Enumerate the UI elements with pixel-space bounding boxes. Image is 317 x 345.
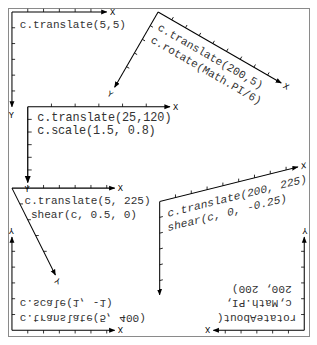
- x-axis-label: X: [204, 324, 210, 334]
- code-line: c.scale(1, -1): [20, 297, 113, 309]
- x-axis-label: X: [118, 324, 124, 334]
- x-axis-label: X: [110, 8, 116, 18]
- y-axis-label: Y: [9, 225, 15, 235]
- x-axis-label: X: [173, 103, 179, 113]
- x-axis-label: X: [118, 184, 124, 194]
- code-line: c.scale(1.5, 0.8): [37, 124, 156, 138]
- x-axis-label: X: [301, 161, 307, 172]
- code-line: rotateAbout(: [217, 312, 297, 324]
- code-line: c,Math.PI,: [225, 297, 291, 309]
- y-axis-label: Y: [301, 225, 307, 235]
- code-line: 200, 200): [232, 283, 292, 295]
- code-line: c.translate(5,5): [20, 19, 126, 31]
- code-line: c.translate(5, 400): [20, 312, 146, 324]
- transform-diagram: X Y c.translate(5,5) X Y c.translate(200…: [0, 0, 317, 345]
- code-line: shear(c, 0.5, 0): [31, 209, 137, 221]
- y-axis-label: Y: [9, 111, 15, 121]
- code-line: c.translate(5, 225): [25, 195, 151, 207]
